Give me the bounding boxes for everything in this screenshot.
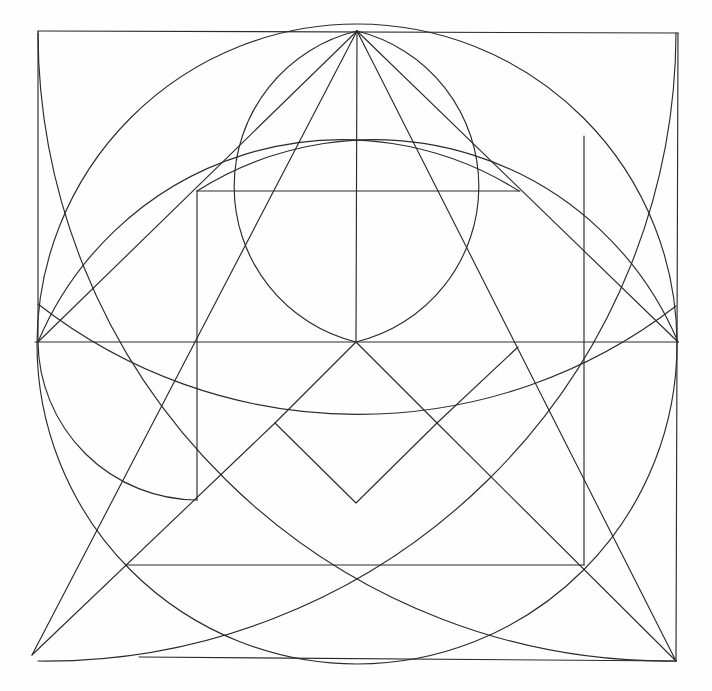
diagonal-descending-right	[357, 31, 676, 661]
arc-petal-right	[356, 31, 479, 342]
drawing-canvas	[0, 0, 712, 691]
ray-upper-right-short	[437, 347, 518, 423]
arc-upper-sweep-right	[197, 140, 678, 342]
vertical-line-group	[197, 31, 584, 565]
arc-upper-sweep-left	[38, 140, 519, 342]
square-group	[38, 31, 678, 661]
upper-sweep-arc-group	[38, 140, 678, 342]
diagonal-right-mid-to-apex	[357, 31, 678, 342]
vertical-center-line	[356, 31, 357, 342]
geometric-figure	[0, 0, 712, 691]
ray-lower-left-long	[32, 423, 275, 655]
diamond-ray-group	[32, 347, 676, 661]
ray-lower-right-long	[437, 423, 676, 661]
arc-petal-left	[234, 31, 357, 342]
low-arc-group	[38, 304, 676, 414]
diamond-group	[275, 342, 437, 503]
central-diamond	[275, 342, 437, 503]
arc-wide-shallow	[38, 304, 676, 414]
diagonal-descending-left	[32, 31, 357, 655]
